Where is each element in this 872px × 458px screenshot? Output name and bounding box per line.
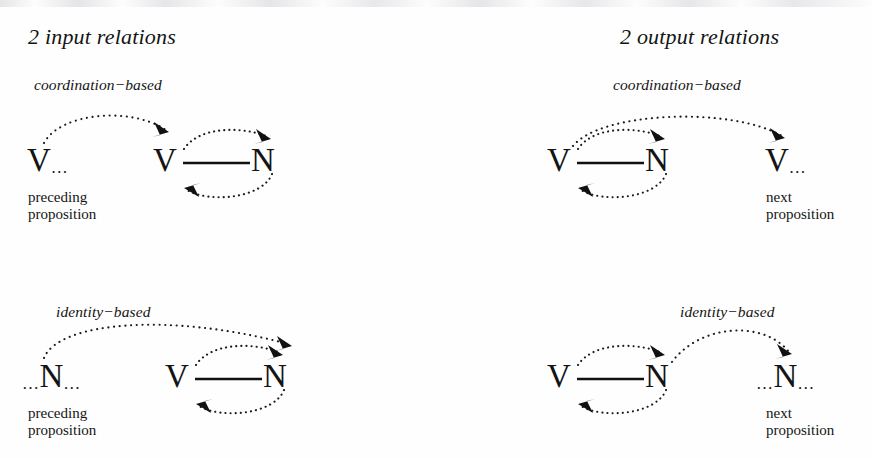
figure-canvas: 2 input relations 2 output relations coo… — [0, 0, 872, 458]
context-node-output-coordination: V… — [765, 144, 806, 177]
caption-line-2: proposition — [766, 206, 834, 223]
ellipsis-trailing: … — [63, 374, 81, 393]
group-label-output-identity: identity−based — [680, 303, 775, 321]
arc-preceding-to-clause-input-identity — [44, 325, 288, 358]
caption-line-2: proposition — [766, 422, 834, 439]
clause-right-output-identity: N — [645, 360, 669, 393]
group-label-input-identity: identity−based — [56, 303, 151, 321]
ellipsis-trailing: … — [51, 158, 69, 177]
arrowhead-clause-to-next-output-identity — [775, 344, 792, 359]
caption-input-coordination: preceding proposition — [28, 189, 96, 224]
clause-left-input-identity: V — [165, 360, 189, 393]
ellipsis-trailing: … — [789, 158, 807, 177]
caption-line-1: preceding — [28, 405, 96, 422]
caption-line-1: preceding — [28, 189, 96, 206]
caption-line-1: next — [766, 405, 834, 422]
context-node-input-identity: …N… — [22, 360, 81, 393]
context-node-letter: V — [765, 142, 789, 178]
context-node-input-coordination: V… — [27, 144, 68, 177]
scan-artifact — [0, 0, 872, 7]
clause-right-input-coordination: N — [251, 144, 275, 177]
caption-output-identity: next proposition — [766, 405, 834, 440]
arrowhead-preceding-to-clause-input-coordination — [152, 122, 169, 137]
panel-title-input: 2 input relations — [28, 24, 176, 50]
relation-arc-layer — [0, 0, 872, 458]
context-node-letter: N — [40, 358, 64, 394]
clause-right-output-coordination: N — [645, 144, 669, 177]
caption-input-identity: preceding proposition — [28, 405, 96, 440]
ellipsis-leading: … — [756, 374, 774, 393]
caption-line-1: next — [766, 189, 834, 206]
arrowhead-preceding-to-clause-input-identity — [275, 336, 292, 351]
arrowhead-clause-n-to-v-output-coordination — [578, 183, 595, 197]
context-node-letter: V — [27, 142, 51, 178]
context-node-output-identity: …N… — [756, 360, 815, 393]
caption-output-coordination: next proposition — [766, 189, 834, 224]
context-node-letter: N — [774, 358, 798, 394]
panel-title-output: 2 output relations — [620, 24, 779, 50]
clause-left-input-coordination: V — [153, 144, 177, 177]
arrowhead-clause-n-to-v-output-identity — [578, 399, 595, 413]
group-label-output-coordination: coordination−based — [613, 76, 741, 94]
ellipsis-trailing: … — [797, 374, 815, 393]
caption-line-2: proposition — [28, 422, 96, 439]
clause-left-output-coordination: V — [547, 144, 571, 177]
arrowhead-clause-n-to-v-input-coordination — [184, 183, 201, 197]
group-label-input-coordination: coordination−based — [34, 76, 162, 94]
arc-clause-to-next-output-coordination — [573, 117, 782, 146]
arc-clause-to-next-output-identity — [672, 330, 789, 362]
ellipsis-leading: … — [22, 374, 40, 393]
clause-right-input-identity: N — [263, 360, 287, 393]
arrowhead-clause-to-next-output-coordination — [768, 128, 785, 143]
arc-preceding-to-clause-input-coordination — [44, 116, 166, 143]
arrowhead-clause-n-to-v-input-identity — [196, 399, 213, 413]
caption-line-2: proposition — [28, 206, 96, 223]
clause-left-output-identity: V — [547, 360, 571, 393]
